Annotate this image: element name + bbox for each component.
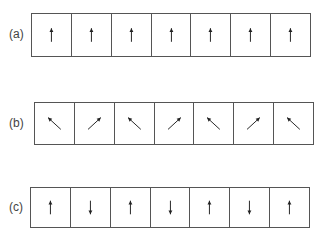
spin-cell (152, 14, 192, 56)
arrow-up-right-icon (75, 103, 114, 144)
spin-cell (270, 188, 309, 227)
arrow-down-icon (71, 188, 110, 227)
arrow-up-icon (190, 188, 229, 227)
row-b-strip (34, 102, 314, 145)
spin-cell (151, 188, 191, 227)
spin-cell (231, 14, 271, 56)
spin-cell (230, 188, 270, 227)
arrow-down-icon (230, 188, 269, 227)
spin-cell (32, 14, 72, 56)
arrow-up-right-icon (155, 103, 194, 144)
row-c-label: (c) (9, 200, 23, 214)
spin-cell (72, 14, 112, 56)
spin-cell (111, 188, 151, 227)
row-a-strip (31, 13, 311, 57)
spin-cell (155, 103, 195, 144)
arrow-up-left-icon (194, 103, 233, 144)
arrow-up-icon (32, 14, 71, 56)
arrow-up-icon (152, 14, 191, 56)
arrow-up-icon (72, 14, 111, 56)
spin-cell (191, 14, 231, 56)
spin-cell (234, 103, 274, 144)
row-a-label: (a) (9, 27, 24, 41)
spin-cell (271, 14, 310, 56)
spin-cell (35, 103, 75, 144)
spin-cell (194, 103, 234, 144)
row-b-label: (b) (9, 116, 24, 130)
spin-cell (112, 14, 152, 56)
arrow-up-icon (112, 14, 151, 56)
row-c-strip (30, 187, 310, 228)
spin-cell (75, 103, 115, 144)
arrow-up-left-icon (115, 103, 154, 144)
spin-cell (71, 188, 111, 227)
arrow-down-icon (151, 188, 190, 227)
spin-cell (190, 188, 230, 227)
arrow-up-right-icon (234, 103, 273, 144)
arrow-up-icon (191, 14, 230, 56)
spin-cell (115, 103, 155, 144)
arrow-up-icon (270, 188, 309, 227)
arrow-up-icon (271, 14, 310, 56)
arrow-up-left-icon (35, 103, 74, 144)
arrow-up-icon (111, 188, 150, 227)
arrow-up-left-icon (274, 103, 313, 144)
arrow-up-icon (31, 188, 70, 227)
arrow-up-icon (231, 14, 270, 56)
spin-cell (31, 188, 71, 227)
spin-cell (274, 103, 313, 144)
